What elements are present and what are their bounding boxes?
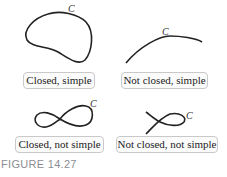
curve-label-c: C [162,26,169,37]
closed-not-simple-curve [35,106,92,127]
figure-caption: FIGURE 14.27 [1,158,77,170]
figure-canvas: C C C C Closed, simple Not closed, simpl… [0,0,227,177]
curve-label-c: C [68,3,75,14]
label-closed-simple: Closed, simple [23,72,95,89]
curve-label-c: C [186,110,193,121]
closed-simple-curve [26,12,92,62]
label-closed-not-simple: Closed, not simple [15,136,104,153]
label-not-closed-not-simple: Not closed, not simple [116,136,218,153]
curve-label-c: C [90,98,97,109]
not-closed-not-simple-curve [146,112,185,134]
label-not-closed-simple: Not closed, simple [121,72,208,89]
not-closed-simple-curve [126,36,202,63]
